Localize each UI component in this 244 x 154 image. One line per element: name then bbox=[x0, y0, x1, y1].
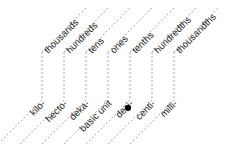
place-value-metric-diagram: thousandskilo-hundredshecto-tensdeka-one… bbox=[0, 0, 244, 154]
diagram-canvas: thousandskilo-hundredshecto-tensdeka-one… bbox=[0, 0, 244, 154]
labels: thousandskilo-hundredshecto-tensdeka-one… bbox=[27, 11, 218, 134]
metric-prefix-label: deci- bbox=[113, 98, 135, 120]
decimal-point-dot bbox=[125, 105, 131, 111]
place-value-label: ones bbox=[108, 33, 131, 56]
metric-prefix-label: centi- bbox=[133, 98, 157, 122]
metric-prefix-label: milli- bbox=[158, 98, 180, 120]
